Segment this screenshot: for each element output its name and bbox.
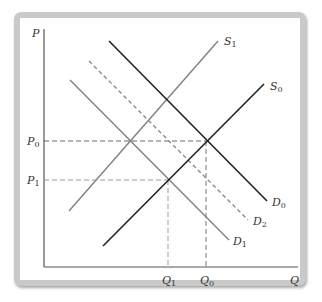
s0-label: S0 [270,80,283,94]
curve-d0 [109,41,267,201]
supply-demand-diagram: P Q P0 P1 Q1 Q0 S1 S0 D0 D2 D1 [0,0,322,302]
curve-s0 [103,84,264,246]
d2-label: D2 [252,215,267,229]
d1-label: D1 [232,235,247,249]
y-axis-label: P [31,27,40,40]
p1-label: P1 [26,174,40,188]
p0-label: P0 [26,135,40,149]
curve-s1 [69,41,218,211]
x-axis-label: Q [290,274,299,287]
s1-label: S1 [224,35,237,49]
q0-label: Q0 [200,274,214,288]
curve-d1 [70,80,229,240]
d0-label: D0 [271,196,286,210]
q1-label: Q1 [162,274,176,288]
